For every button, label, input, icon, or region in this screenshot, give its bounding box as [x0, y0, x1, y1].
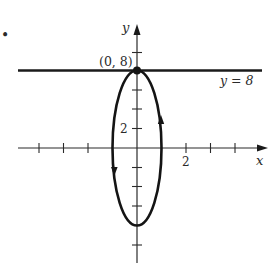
- arrow-down-icon: [111, 167, 118, 176]
- x-axis: 2 x: [18, 143, 268, 169]
- y-tick-label-2: 2: [120, 122, 128, 136]
- x-axis-arrow-icon: [257, 145, 268, 152]
- point-0-8: [133, 67, 141, 75]
- y-axis-arrow-icon: [134, 24, 141, 35]
- line-label: y = 8: [219, 73, 253, 88]
- x-tick-label-2: 2: [182, 155, 190, 169]
- point-label: (0, 8): [99, 54, 133, 69]
- bullet-marker: •: [1, 27, 9, 43]
- chart: • 2 x 2: [0, 0, 268, 274]
- x-axis-label: x: [256, 153, 264, 168]
- y-axis-label: y: [121, 20, 130, 35]
